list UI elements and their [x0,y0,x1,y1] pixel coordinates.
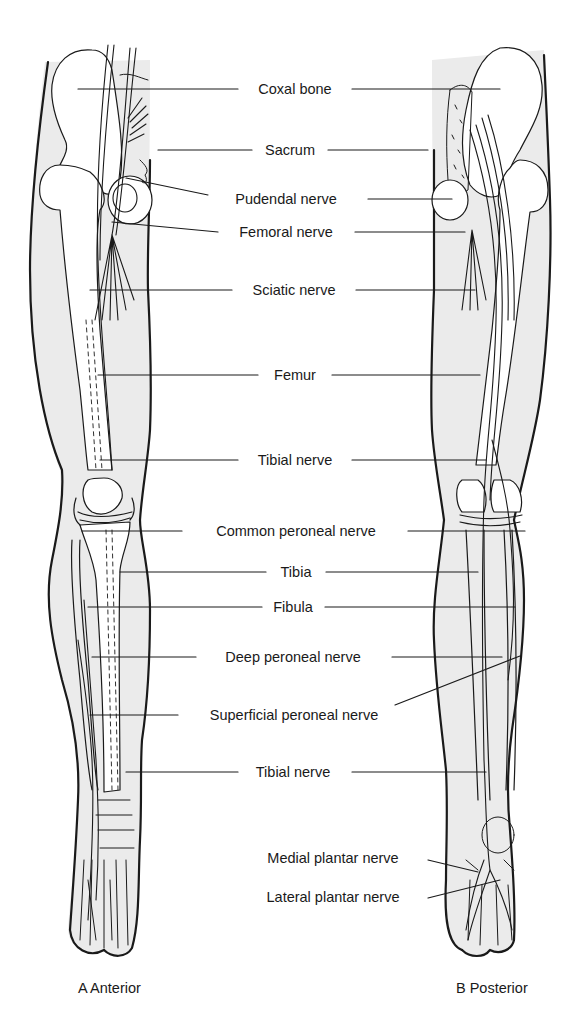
label-deep-peroneal-nerve: Deep peroneal nerve [222,649,363,665]
label-common-peroneal-nerve: Common peroneal nerve [213,523,379,539]
posterior-ischium [432,180,468,220]
label-coxal-bone: Coxal bone [255,81,334,97]
anterior-leg [30,45,152,956]
label-superficial-peroneal-nerve: Superficial peroneal nerve [207,707,381,723]
posterior-leg [431,48,550,956]
label-femoral-nerve: Femoral nerve [236,224,335,240]
label-tibial-nerve-lower: Tibial nerve [253,764,333,780]
label-sacrum: Sacrum [262,142,318,158]
label-fibula: Fibula [270,599,316,615]
label-medial-plantar-nerve: Medial plantar nerve [264,850,401,866]
label-tibia: Tibia [278,564,315,580]
label-femur: Femur [271,367,319,383]
caption-posterior: B Posterior [456,980,528,996]
label-lateral-plantar-nerve: Lateral plantar nerve [264,889,403,905]
label-tibial-nerve-upper: Tibial nerve [255,452,335,468]
label-sciatic-nerve: Sciatic nerve [249,282,338,298]
caption-anterior: A Anterior [78,980,141,996]
label-pudendal-nerve: Pudendal nerve [232,191,340,207]
